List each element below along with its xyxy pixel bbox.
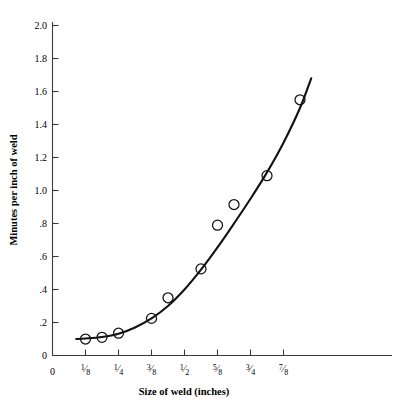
x-label-1-2: 1⁄2	[180, 363, 190, 377]
x-axis-ticks	[86, 350, 284, 356]
y-axis-tick-labels: 0 .2 .4 .6 .8 1.0 1.2 1.4 1.6 1.8 2.0	[35, 20, 48, 361]
y-axis-title: Minutes per inch of weld	[8, 134, 19, 245]
y-label-1.0: 1.0	[35, 185, 48, 196]
y-label-0.8: .8	[40, 218, 48, 229]
y-label-2.0: 2.0	[35, 20, 48, 31]
data-point-marker	[213, 220, 223, 230]
x-axis-tick-labels: 0 1⁄8 1⁄4 3⁄8 1⁄2	[50, 363, 288, 378]
x-label-3-4-denominator: 4	[251, 368, 255, 377]
scatter-plot-canvas: 0 .2 .4 .6 .8 1.0 1.2 1.4 1.6 1.8 2.0 0	[0, 0, 414, 415]
svg-text:1⁄2: 1⁄2	[180, 363, 190, 377]
data-series-layer	[76, 78, 311, 344]
x-label-1-2-denominator: 2	[185, 368, 189, 377]
y-label-1.4: 1.4	[35, 119, 48, 130]
data-point-marker	[163, 293, 173, 303]
y-label-0.6: .6	[40, 251, 48, 262]
y-label-0.2: .2	[40, 317, 48, 328]
x-label-7-8-denominator: 8	[284, 368, 288, 377]
y-label-1.2: 1.2	[35, 152, 48, 163]
x-label-7-8: 7⁄8	[279, 363, 289, 377]
x-label-1-4-denominator: 4	[119, 368, 123, 377]
x-label-3-8-denominator: 8	[152, 368, 156, 377]
svg-text:1⁄4: 1⁄4	[114, 363, 124, 377]
x-label-5-8: 5⁄8	[213, 363, 223, 377]
fitted-curve	[76, 78, 311, 339]
x-label-3-8: 3⁄8	[147, 363, 157, 377]
svg-text:3⁄4: 3⁄4	[246, 363, 256, 377]
x-label-0: 0	[50, 366, 55, 377]
y-label-0.4: .4	[40, 284, 48, 295]
x-label-3-4: 3⁄4	[246, 363, 256, 377]
chart-figure: 0 .2 .4 .6 .8 1.0 1.2 1.4 1.6 1.8 2.0 0	[0, 0, 414, 415]
svg-text:1⁄8: 1⁄8	[81, 363, 91, 377]
y-label-0: 0	[42, 350, 47, 361]
x-axis-title: Size of weld (inches)	[139, 386, 230, 398]
data-point-marker	[229, 200, 239, 210]
x-label-5-8-denominator: 8	[218, 368, 222, 377]
y-label-1.8: 1.8	[35, 53, 48, 64]
x-label-1-8: 1⁄8	[81, 363, 91, 377]
x-label-1-4: 1⁄4	[114, 363, 124, 377]
svg-text:5⁄8: 5⁄8	[213, 363, 223, 377]
svg-text:7⁄8: 7⁄8	[279, 363, 289, 377]
y-axis-ticks	[53, 26, 59, 356]
x-label-1-8-denominator: 8	[86, 368, 90, 377]
axis-lines	[53, 22, 393, 356]
y-label-1.6: 1.6	[35, 86, 48, 97]
svg-text:3⁄8: 3⁄8	[147, 363, 157, 377]
